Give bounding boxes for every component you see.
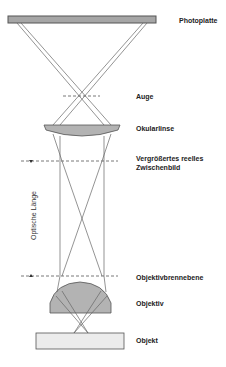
microscope-optical-path-diagram bbox=[0, 0, 226, 367]
objective-lens bbox=[50, 282, 111, 313]
label-objekt: Objekt bbox=[136, 336, 158, 345]
label-zwischenbild-line2: Zwischenbild bbox=[136, 163, 180, 172]
label-auge: Auge bbox=[136, 92, 154, 101]
arrow-marker-top bbox=[29, 160, 33, 163]
label-optische-laenge: Optische Länge bbox=[30, 191, 37, 241]
label-zwischenbild-line1: Vergrößertes reelles bbox=[136, 154, 203, 163]
label-objektiv: Objektiv bbox=[136, 299, 164, 308]
arrow-marker-bottom bbox=[29, 274, 33, 277]
rays-plate-to-eye bbox=[17, 23, 147, 125]
photographic-plate bbox=[8, 16, 156, 23]
label-photoplatte: Photoplatte bbox=[179, 16, 218, 25]
rays-tube bbox=[60, 161, 104, 276]
label-objektivbrennebene: Objektivbrennebene bbox=[136, 273, 203, 282]
object-slide bbox=[36, 333, 124, 349]
label-okularlinse: Okularlinse bbox=[136, 124, 174, 133]
eyepiece-lens bbox=[44, 125, 120, 136]
rays-eyepiece-to-intermediate bbox=[53, 134, 111, 161]
